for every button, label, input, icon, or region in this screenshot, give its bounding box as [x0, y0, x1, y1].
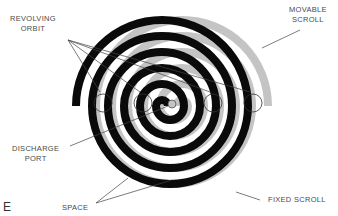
label-space: SPACE: [62, 203, 88, 213]
label-fixed-scroll: FIXED SCROLL: [268, 195, 326, 205]
label-revolving-orbit: REVOLVING ORBIT: [10, 14, 56, 34]
label-movable-scroll: MOVABLE SCROLL: [289, 5, 327, 25]
discharge-port-icon: [168, 100, 176, 108]
figure-corner-letter: E: [3, 200, 11, 214]
label-discharge-port: DISCHARGE PORT: [12, 144, 59, 164]
